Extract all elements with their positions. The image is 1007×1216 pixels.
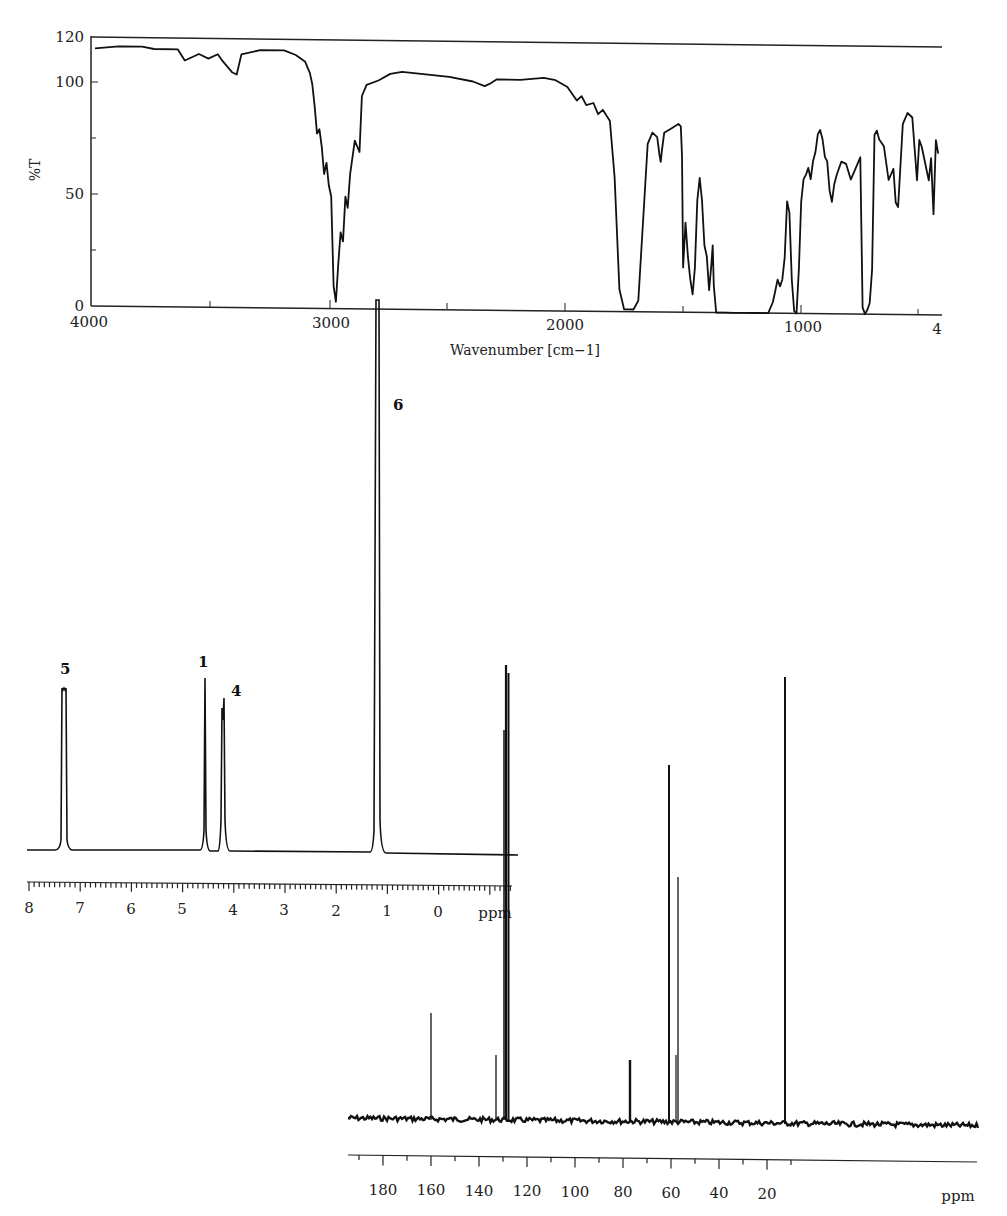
h-nmr-x-tick-0: 0 <box>433 903 443 921</box>
ir-x-tick-1000: 1000 <box>784 318 822 336</box>
h-nmr-peak-label-6: 6 <box>393 396 403 414</box>
ir-x-tick-4000: 4000 <box>70 313 108 331</box>
c-nmr-x-tick-140: 140 <box>465 1182 494 1200</box>
ir-x-tick-2000: 2000 <box>546 316 584 334</box>
h-nmr-x-tick-2: 2 <box>331 902 341 920</box>
ir-spectrum-chart: 120 100 50 0 %T 4000 3000 2000 1000 4 Wa… <box>0 0 1007 360</box>
c-nmr-x-tick-120: 120 <box>513 1182 542 1200</box>
h-nmr-x-tick-5: 5 <box>177 900 187 918</box>
ir-plot-frame <box>91 36 942 315</box>
c-nmr-baseline-noise <box>348 1116 978 1128</box>
h-nmr-x-tick-8: 8 <box>24 899 34 917</box>
h-nmr-x-tick-6: 6 <box>126 900 136 918</box>
c-nmr-x-axis <box>348 1155 977 1170</box>
h-nmr-x-unit: ppm <box>478 904 511 922</box>
h-nmr-peak-label-1: 1 <box>198 653 208 671</box>
ir-y-tick-100: 100 <box>55 73 84 91</box>
h-nmr-spectrum-line <box>27 300 518 855</box>
h-nmr-x-tick-7: 7 <box>75 899 85 917</box>
ir-y-ticks <box>91 82 98 250</box>
c-nmr-peaks <box>431 665 785 1124</box>
c-nmr-x-tick-60: 60 <box>661 1184 680 1202</box>
h-nmr-x-tick-3: 3 <box>279 901 289 919</box>
c-nmr-x-tick-40: 40 <box>709 1184 728 1202</box>
h-nmr-x-tick-4: 4 <box>228 901 238 919</box>
c-nmr-x-tick-180: 180 <box>369 1181 398 1199</box>
ir-x-tick-3000: 3000 <box>312 314 350 332</box>
h-nmr-x-tick-1: 1 <box>382 902 392 920</box>
c-nmr-x-unit: ppm <box>941 1187 974 1205</box>
c-nmr-x-tick-labels: 180 160 140 120 100 80 60 40 20 ppm <box>369 1181 975 1205</box>
h-nmr-peak-label-5: 5 <box>60 660 70 678</box>
ir-y-tick-120: 120 <box>55 28 84 46</box>
c-nmr-x-tick-80: 80 <box>613 1183 632 1201</box>
ir-x-tick-400: 4 <box>932 320 942 338</box>
h-nmr-x-axis <box>27 882 512 895</box>
ir-x-axis-title: Wavenumber [cm−1] <box>450 342 600 358</box>
ir-spectrum-line <box>95 46 938 314</box>
c-nmr-x-tick-160: 160 <box>417 1181 446 1199</box>
ir-y-tick-50: 50 <box>65 185 84 203</box>
h-nmr-x-tick-labels: 8 7 6 5 4 3 2 1 0 ppm <box>24 899 511 922</box>
ir-y-axis-title: %T <box>27 158 43 181</box>
c-nmr-x-tick-20: 20 <box>757 1185 776 1203</box>
c-nmr-x-tick-100: 100 <box>561 1183 590 1201</box>
h-nmr-peak-label-4: 4 <box>231 682 241 700</box>
ir-x-ticks <box>210 300 918 315</box>
